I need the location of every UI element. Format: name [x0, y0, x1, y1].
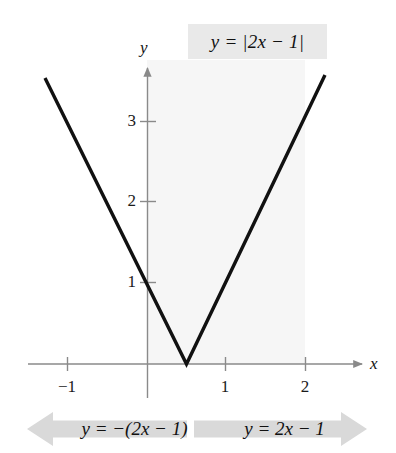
piecewise-right-equation-text: y = 2x − 1 [244, 418, 325, 440]
shaded-region [147, 60, 305, 364]
piecewise-left-equation: y = −(2x − 1) [57, 409, 212, 449]
piecewise-banner: y = −(2x − 1) y = 2x − 1 [27, 409, 367, 449]
y-axis-label: y [140, 38, 148, 58]
piecewise-left-equation-text: y = −(2x − 1) [82, 418, 188, 440]
piecewise-right-equation: y = 2x − 1 [217, 409, 352, 449]
x-axis-label: x [370, 354, 378, 374]
x-tick-label-2: 2 [290, 377, 320, 397]
y-tick-label-2: 2 [110, 191, 136, 211]
y-tick-label-1: 1 [110, 272, 136, 292]
x-tick-label--1: −1 [52, 377, 82, 397]
equation-title-text: y = |2x − 1| [211, 31, 304, 53]
x-tick-label-1: 1 [210, 377, 240, 397]
y-tick-label-3: 3 [110, 111, 136, 131]
absolute-value-graph-figure: y = |2x − 1| y x −1 1 2 3 2 1 y = −(2x −… [0, 0, 396, 453]
equation-title-label: y = |2x − 1| [188, 24, 327, 59]
